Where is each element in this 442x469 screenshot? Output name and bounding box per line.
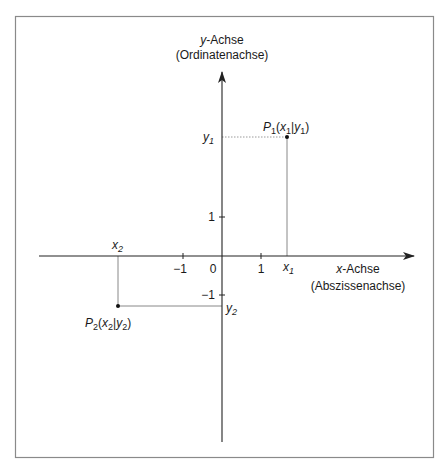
y-axis-subtitle: (Ordinatenachse) — [176, 48, 269, 62]
x1-label: x1 — [282, 260, 294, 276]
origin-label: 0 — [210, 262, 217, 276]
x2-label: x2 — [111, 238, 123, 254]
y2-label: y2 — [225, 301, 237, 317]
point-p2 — [116, 304, 120, 308]
coordinate-system-figure: y-Achse (Ordinatenachse) x-Achse (Abszis… — [0, 0, 442, 469]
y-axis-title: y-Achse — [199, 33, 244, 47]
p2-label: P2(x2|y2) — [85, 316, 131, 332]
x-axis-title: x-Achse — [335, 262, 380, 276]
y-tick-label-neg1: −1 — [201, 288, 215, 302]
y1-label: y1 — [202, 130, 214, 146]
x-axis-subtitle: (Abszissenachse) — [311, 279, 406, 293]
y-tick-label-pos1: 1 — [208, 210, 215, 224]
figure-frame — [16, 17, 434, 458]
p1-label: P1(x1|y1) — [263, 120, 309, 136]
x-tick-label-neg1: −1 — [173, 262, 187, 276]
x-tick-label-pos1: 1 — [258, 262, 265, 276]
